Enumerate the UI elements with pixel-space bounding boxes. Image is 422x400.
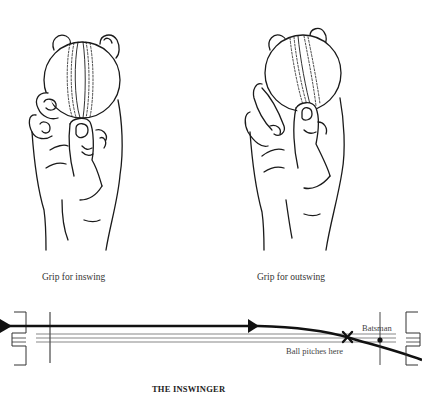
ball-trajectory: [0, 326, 422, 360]
diagram-title: THE INSWINGER: [152, 384, 225, 394]
arrow-mid-icon: [248, 319, 259, 333]
inswing-caption: Grip for inswing: [42, 272, 105, 282]
arrow-start-icon: [0, 319, 12, 333]
inswinger-trajectory-diagram: Batsman Ball pitches here: [0, 312, 422, 365]
bowler-end-crease: [12, 312, 50, 365]
batsman-marker-icon: [377, 337, 382, 342]
illustration-canvas: Batsman Ball pitches here: [0, 0, 422, 400]
outswing-caption: Grip for outswing: [257, 272, 325, 282]
pitch-point-label: Ball pitches here: [286, 346, 343, 356]
batsman-label: Batsman: [362, 323, 392, 333]
inswing-grip-illustration: [29, 35, 122, 250]
outswing-grip-illustration: [245, 29, 344, 250]
